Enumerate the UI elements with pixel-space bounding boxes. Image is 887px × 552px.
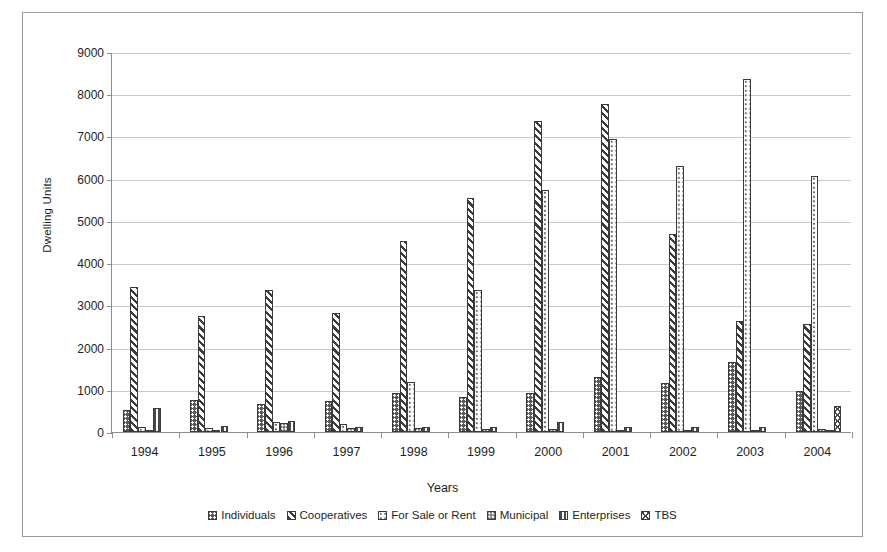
bar-enterprises-1997 (355, 427, 363, 432)
bar-enterprises-1996 (288, 421, 296, 432)
bar-cooperatives-1995 (198, 316, 206, 432)
y-axis-title: Dwelling Units (41, 145, 53, 285)
bar-group (381, 53, 448, 432)
y-axis-tick-label: 6000 (60, 180, 104, 181)
bar-individuals-2002 (661, 383, 669, 432)
y-axis-tick-label: 4000 (60, 264, 104, 265)
bar-for-sale-or-rent-2002 (676, 166, 684, 432)
bar-enterprises-2004 (826, 430, 834, 432)
legend-item-label: TBS (654, 509, 676, 521)
y-axis-tick-label: 2000 (60, 349, 104, 350)
legend-swatch-icon (641, 511, 650, 520)
bar-municipal-1995 (213, 430, 221, 432)
bar-group (717, 53, 784, 432)
y-axis-tick-label: 7000 (60, 137, 104, 138)
legend-item-tbs[interactable]: TBS (641, 509, 676, 521)
bar-cooperatives-2002 (669, 234, 677, 432)
bar-tbs-2004 (834, 406, 842, 432)
chart-frame: Dwelling Units 0100020003000400050006000… (22, 12, 863, 537)
legend-item-label: Enterprises (572, 509, 630, 521)
legend-swatch-icon (378, 511, 387, 520)
y-axis-tick-label: 8000 (60, 95, 104, 96)
bar-cooperatives-2000 (534, 121, 542, 432)
bar-group (516, 53, 583, 432)
x-axis-tickmark (314, 432, 315, 438)
legend-item-label: Individuals (221, 509, 275, 521)
bar-group (179, 53, 246, 432)
legend-swatch-icon (559, 511, 568, 520)
y-axis-tick-label: 1000 (60, 391, 104, 392)
bar-individuals-2003 (728, 362, 736, 432)
bar-enterprises-2003 (759, 427, 767, 432)
bar-individuals-2001 (594, 377, 602, 432)
bar-individuals-1999 (459, 397, 467, 432)
x-axis-tickmark (852, 432, 853, 438)
bar-for-sale-or-rent-1996 (273, 422, 281, 432)
bar-municipal-1994 (146, 430, 154, 432)
bar-for-sale-or-rent-2001 (609, 139, 617, 432)
bar-enterprises-2000 (557, 422, 565, 432)
bar-group (583, 53, 650, 432)
bar-individuals-1996 (257, 404, 265, 432)
bar-group (785, 53, 852, 432)
bar-cooperatives-1994 (130, 287, 138, 432)
y-axis-tick-label: 5000 (60, 222, 104, 223)
bar-for-sale-or-rent-1998 (407, 382, 415, 432)
x-axis-tickmark (583, 432, 584, 438)
x-axis-tickmark (717, 432, 718, 438)
bar-group (247, 53, 314, 432)
bar-cooperatives-1997 (332, 313, 340, 432)
x-axis-tickmark (247, 432, 248, 438)
bar-municipal-1996 (280, 423, 288, 432)
bar-for-sale-or-rent-1994 (138, 427, 146, 432)
x-axis-tick-label: 2004 (777, 445, 857, 459)
x-axis-tickmark (179, 432, 180, 438)
bar-individuals-1995 (190, 400, 198, 432)
bar-for-sale-or-rent-1997 (340, 424, 348, 432)
bar-group (650, 53, 717, 432)
bar-municipal-2001 (617, 430, 625, 432)
legend-item-municipal[interactable]: Municipal (487, 509, 549, 521)
x-axis-tickmark (650, 432, 651, 438)
bar-municipal-2002 (684, 430, 692, 432)
bar-enterprises-1995 (221, 426, 229, 432)
y-axis-tick-label: 3000 (60, 306, 104, 307)
bar-for-sale-or-rent-2003 (743, 79, 751, 432)
legend-item-label: For Sale or Rent (391, 509, 475, 521)
bar-for-sale-or-rent-2004 (811, 176, 819, 432)
bar-for-sale-or-rent-2000 (542, 190, 550, 432)
legend-item-cooperatives[interactable]: Cooperatives (287, 509, 368, 521)
bar-enterprises-2001 (624, 427, 632, 432)
bar-enterprises-1999 (490, 427, 498, 432)
bar-enterprises-2002 (691, 427, 699, 432)
bar-cooperatives-1996 (265, 290, 273, 432)
legend-item-enterprises[interactable]: Enterprises (559, 509, 630, 521)
bar-group (112, 53, 179, 432)
bar-individuals-2004 (796, 391, 804, 432)
bar-municipal-2000 (549, 429, 557, 432)
y-axis-tick-label: 0 (60, 433, 104, 434)
chart-legend: IndividualsCooperativesFor Sale or RentM… (23, 509, 862, 521)
bar-individuals-2000 (526, 393, 534, 432)
bar-individuals-1998 (392, 393, 400, 432)
bar-individuals-1997 (325, 401, 333, 432)
legend-item-individuals[interactable]: Individuals (208, 509, 275, 521)
bar-group (314, 53, 381, 432)
x-axis-tickmark (112, 432, 113, 438)
bar-individuals-1994 (123, 410, 131, 432)
legend-item-label: Cooperatives (300, 509, 368, 521)
bar-enterprises-1998 (422, 427, 430, 432)
legend-item-for-sale-or-rent[interactable]: For Sale or Rent (378, 509, 475, 521)
bar-municipal-1997 (347, 428, 355, 432)
bar-municipal-2003 (751, 430, 759, 432)
bar-municipal-1998 (415, 428, 423, 432)
bar-cooperatives-1999 (467, 198, 475, 432)
x-axis-tickmark (516, 432, 517, 438)
bar-enterprises-1994 (153, 408, 161, 432)
bar-for-sale-or-rent-1999 (474, 290, 482, 432)
x-axis-title: Years (23, 481, 862, 495)
bar-cooperatives-1998 (400, 241, 408, 432)
bar-cooperatives-2003 (736, 321, 744, 432)
bar-group (448, 53, 515, 432)
legend-swatch-icon (287, 511, 296, 520)
